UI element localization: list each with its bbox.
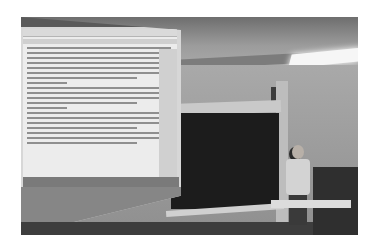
chalkboard [171,113,279,209]
text-line [27,107,67,109]
projected-tab-bar [23,29,177,37]
text-line [27,47,171,49]
text-line [27,57,171,59]
text-line [27,97,171,99]
desk [271,200,351,208]
text-line [27,92,171,94]
text-line [27,72,171,74]
text-line [27,142,137,144]
text-line [27,112,171,114]
text-line [27,137,171,139]
person-head [292,145,304,159]
text-line [27,132,171,134]
text-line [27,77,137,79]
person [283,145,313,225]
classroom-photo [21,17,358,235]
text-line [27,52,171,54]
text-line [27,102,137,104]
projected-taskbar [23,177,179,187]
text-line [27,87,171,89]
projected-document [23,29,177,179]
projected-scrollbar-area [159,49,177,179]
text-line [27,67,171,69]
projected-toolbar [23,39,177,44]
text-line [27,122,171,124]
text-line [27,117,171,119]
text-line [27,62,171,64]
text-line [27,82,67,84]
person-torso [286,159,310,195]
text-line [27,127,137,129]
